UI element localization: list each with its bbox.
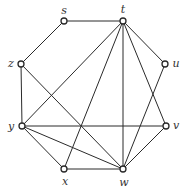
edge-y-x bbox=[22, 126, 64, 169]
edge-z-y bbox=[21, 64, 22, 126]
edge-z-w bbox=[21, 64, 123, 169]
edge-t-u bbox=[123, 21, 165, 64]
node-t bbox=[120, 18, 126, 24]
node-z bbox=[18, 61, 24, 67]
graph-edges bbox=[21, 21, 166, 169]
node-s bbox=[61, 18, 67, 24]
edge-s-z bbox=[21, 21, 64, 64]
edge-t-x bbox=[64, 21, 123, 169]
node-x bbox=[61, 166, 67, 172]
node-label-v: v bbox=[173, 119, 180, 132]
node-label-w: w bbox=[119, 176, 129, 189]
edge-t-v bbox=[123, 21, 166, 126]
edge-v-w bbox=[123, 126, 166, 169]
node-w bbox=[120, 166, 126, 172]
node-v bbox=[163, 123, 169, 129]
node-label-s: s bbox=[61, 4, 67, 17]
node-y bbox=[19, 123, 25, 129]
node-label-u: u bbox=[172, 57, 179, 70]
node-label-y: y bbox=[7, 120, 15, 133]
node-u bbox=[162, 61, 168, 67]
node-label-z: z bbox=[7, 57, 14, 70]
edge-u-w bbox=[123, 64, 165, 169]
graph-diagram: stzuyvxw bbox=[0, 0, 186, 193]
edge-y-w bbox=[22, 126, 123, 169]
edge-t-y bbox=[22, 21, 123, 126]
node-label-t: t bbox=[121, 3, 126, 16]
node-label-x: x bbox=[62, 175, 69, 188]
